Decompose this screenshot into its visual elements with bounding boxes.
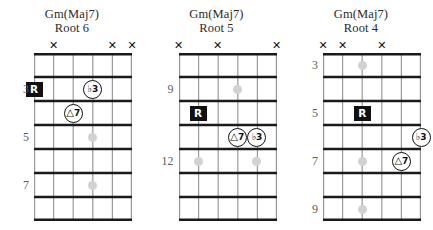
fretboard-grid: R△7♭3 <box>179 53 277 221</box>
interval-marker: ♭3 <box>247 128 266 147</box>
chord-diagram-root6: Gm(Maj7)Root 6✕✕✕R♭3△7357 <box>0 0 144 230</box>
interval-marker: ♭3 <box>83 80 102 99</box>
accidental-glyph: ♭ <box>87 83 92 94</box>
muted-strings-row: ✕✕✕ <box>179 40 277 53</box>
interval-number: 7 <box>74 108 80 118</box>
mute-x-icon: ✕ <box>271 40 282 51</box>
fret-inlay-dot <box>358 61 367 70</box>
fret-inlay-dot <box>358 205 367 214</box>
fret-inlay-dot <box>233 85 242 94</box>
interval-marker: △7 <box>228 128 247 147</box>
chord-title: Gm(Maj7) <box>0 7 144 21</box>
fret-number-label: 3 <box>3 83 29 95</box>
interval-number: 3 <box>420 132 426 142</box>
fret-number-label: 9 <box>292 203 318 215</box>
fret-inlay-dot <box>194 157 203 166</box>
chord-root-label: Root 4 <box>289 21 433 35</box>
interval-number: 7 <box>402 156 408 166</box>
chord-title: Gm(Maj7) <box>289 7 433 21</box>
interval-number: 3 <box>92 84 98 94</box>
interval-marker: △7 <box>64 104 83 123</box>
root-note-marker: R <box>190 106 207 121</box>
fret-number-label: 9 <box>148 83 174 95</box>
fret-inlay-dot <box>88 133 97 142</box>
accidental-glyph: ♭ <box>416 131 421 142</box>
muted-strings-row: ✕✕✕ <box>323 40 421 53</box>
fretboard-grid: R♭3△7 <box>323 53 421 221</box>
chord-root-label: Root 5 <box>145 21 289 35</box>
accidental-glyph: △ <box>66 107 74 118</box>
chord-chart-sheet: Gm(Maj7)Root 6✕✕✕R♭3△7357Gm(Maj7)Root 5✕… <box>0 0 433 230</box>
fret-number-label: 7 <box>292 155 318 167</box>
chord-title: Gm(Maj7) <box>145 7 289 21</box>
accidental-glyph: △ <box>394 155 402 166</box>
chord-diagram-root4: Gm(Maj7)Root 4✕✕✕R♭3△73579 <box>289 0 433 230</box>
fret-number-label: 7 <box>3 179 29 191</box>
fret-number-label: 3 <box>292 59 318 71</box>
mute-x-icon: ✕ <box>318 40 329 51</box>
interval-marker: △7 <box>392 152 411 171</box>
mute-x-icon: ✕ <box>212 40 223 51</box>
interval-number: 3 <box>256 132 262 142</box>
accidental-glyph: ♭ <box>251 131 256 142</box>
mute-x-icon: ✕ <box>376 40 387 51</box>
mute-x-icon: ✕ <box>107 40 118 51</box>
chord-diagram-root5: Gm(Maj7)Root 5✕✕✕R△7♭3912 <box>145 0 289 230</box>
fret-inlay-dot <box>252 157 261 166</box>
interval-marker: ♭3 <box>412 128 431 147</box>
mute-x-icon: ✕ <box>337 40 348 51</box>
mute-x-icon: ✕ <box>173 40 184 51</box>
fret-inlay-dot <box>88 181 97 190</box>
fret-inlay-dot <box>358 157 367 166</box>
root-note-marker: R <box>354 106 371 121</box>
fretboard-grid: R♭3△7 <box>34 53 132 221</box>
accidental-glyph: △ <box>230 131 238 142</box>
mute-x-icon: ✕ <box>48 40 59 51</box>
fret-number-label: 5 <box>3 131 29 143</box>
mute-x-icon: ✕ <box>127 40 138 51</box>
muted-strings-row: ✕✕✕ <box>34 40 132 53</box>
interval-number: 7 <box>238 132 244 142</box>
chord-root-label: Root 6 <box>0 21 144 35</box>
fret-number-label: 5 <box>292 107 318 119</box>
fret-number-label: 12 <box>148 155 174 167</box>
